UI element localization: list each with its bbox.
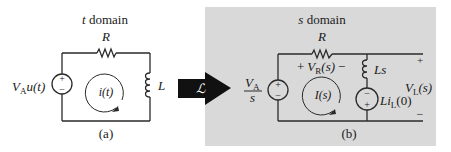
source-label: VAu(t)	[12, 79, 45, 96]
vl-plus-sign: +	[417, 54, 423, 66]
s-resistor-label: R	[317, 29, 326, 44]
s-current-label: I(s)	[314, 88, 332, 102]
vl-minus-sign: −	[417, 107, 424, 121]
source-minus-sign: −	[59, 84, 65, 95]
circuit-figure: + − t domain R L VAu(t) i(t) (a) ℒ + − −…	[0, 0, 451, 152]
source-plus-sign: +	[59, 73, 65, 84]
current-label: i(t)	[99, 85, 114, 99]
s-source-minus-sign: −	[275, 90, 281, 101]
s-source-plus-sign: +	[275, 79, 281, 90]
resistor-icon	[97, 49, 116, 57]
resistor-label: R	[101, 29, 110, 44]
s-inductor-label: Ls	[373, 62, 386, 77]
panel-b-caption: (b)	[341, 126, 356, 141]
svg-text:s: s	[250, 90, 255, 105]
ic-source-minus-sign: −	[364, 88, 370, 99]
resistor-voltage-label: +VR(s)−	[297, 59, 345, 76]
inductor-voltage-label: VL(s)	[405, 80, 432, 97]
ic-source-plus-sign: +	[364, 99, 370, 110]
inductor-icon	[146, 73, 151, 97]
s-domain-panel-background	[205, 7, 436, 146]
s-domain-title: s domain	[298, 12, 346, 27]
panel-a-caption: (a)	[99, 126, 113, 141]
laplace-symbol: ℒ	[196, 81, 206, 96]
t-domain-title: t domain	[82, 12, 128, 27]
inductor-label: L	[157, 78, 165, 93]
